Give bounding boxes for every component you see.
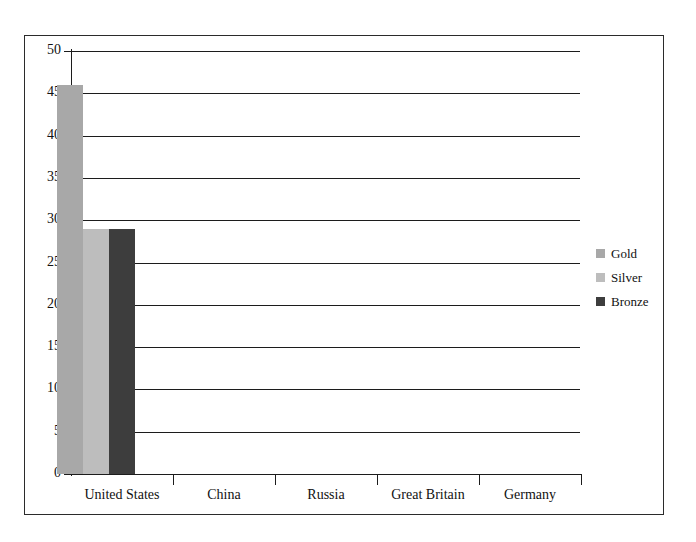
y-axis-tick-label: 45 [25,85,61,99]
gridline [71,389,580,390]
y-axis-tick-label: 25 [25,255,61,269]
gridline [71,220,580,221]
y-axis-tick-label: 15 [25,339,61,353]
x-axis-tick [581,474,582,485]
legend-label: Gold [611,247,637,260]
x-axis-category-label: United States [71,488,173,502]
legend-swatch-icon [596,297,605,306]
y-axis-tick [64,474,79,475]
bar [57,85,83,474]
legend-item[interactable]: Bronze [596,289,660,313]
x-axis-category-label: China [173,488,275,502]
y-axis-tick-label: 40 [25,128,61,142]
x-axis-category-label: Russia [275,488,377,502]
gridline [71,136,580,137]
chart-page: { "chart_data": { "type": "bar", "title"… [0,0,696,542]
y-axis-tick-label: 35 [25,170,61,184]
y-axis-tick-label: 20 [25,297,61,311]
bar [83,229,109,474]
gridline [71,93,580,94]
gridline [71,432,580,433]
gridline [71,305,580,306]
chart-figure: 05101520253035404550 United StatesChinaR… [24,35,664,515]
gridline [71,263,580,264]
x-axis-tick [173,474,174,485]
y-axis-tick [64,51,79,52]
legend-label: Bronze [611,295,649,308]
legend-item[interactable]: Silver [596,265,660,289]
y-axis-tick-label: 5 [25,424,61,438]
legend-swatch-icon [596,249,605,258]
x-axis-category-label: Great Britain [377,488,479,502]
x-axis-line [71,474,581,475]
x-axis-tick [275,474,276,485]
x-axis-tick [479,474,480,485]
y-axis-tick-label: 10 [25,381,61,395]
legend-swatch-icon [596,273,605,282]
gridline [71,178,580,179]
legend-item[interactable]: Gold [596,241,660,265]
gridline [71,347,580,348]
x-axis-tick [377,474,378,485]
y-axis-tick-label: 50 [25,43,61,57]
gridline [71,51,580,52]
chart-legend: GoldSilverBronze [596,241,660,313]
y-axis-tick-label: 30 [25,212,61,226]
legend-label: Silver [611,271,642,284]
x-axis-category-label: Germany [479,488,581,502]
bar [109,229,135,474]
y-axis-tick-label: 0 [25,466,61,480]
